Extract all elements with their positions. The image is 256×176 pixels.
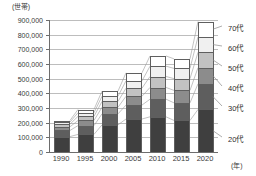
legend-label-70代[interactable]: 70代 (228, 22, 243, 33)
plot-area (49, 20, 218, 153)
y-axis-tick-mark (46, 49, 49, 50)
legend-label-60代[interactable]: 60代 (228, 42, 243, 53)
y-axis-tick-mark (46, 108, 49, 109)
y-axis-tick-mark (46, 20, 49, 21)
bar-segment-50代 (150, 77, 166, 88)
bar-segment-20代 (126, 119, 142, 152)
y-axis-tick-mark (46, 35, 49, 36)
x-axis-tick-labels: 1990199520002005201020152020 (49, 154, 217, 168)
bar-segment-70代 (150, 56, 166, 66)
y-axis-tick-label: 600,000 (18, 61, 43, 68)
x-axis-tick-label-2000: 2000 (101, 154, 118, 163)
y-axis-tick-labels: 0100,000200,000300,000400,000500,000600,… (0, 20, 46, 152)
y-axis-tick-mark (46, 79, 49, 80)
y-axis-tick-mark (46, 93, 49, 94)
bar-2000[interactable] (102, 91, 118, 152)
bar-segment-30代 (102, 114, 118, 125)
y-axis-tick-mark (46, 137, 49, 138)
legend-label-30代[interactable]: 30代 (228, 102, 243, 113)
bar-segment-40代 (198, 68, 214, 84)
bar-segment-30代 (126, 105, 142, 119)
bar-segment-40代 (174, 90, 190, 102)
bar-1990[interactable] (54, 121, 70, 152)
y-axis-tick-label: 200,000 (18, 119, 43, 126)
bar-segment-60代 (150, 66, 166, 76)
bar-segment-20代 (102, 125, 118, 152)
y-axis-tick-label: 300,000 (18, 105, 43, 112)
y-axis-tick-label: 800,000 (18, 31, 43, 38)
bar-segment-20代 (174, 120, 190, 152)
bar-segment-20代 (54, 137, 70, 152)
y-axis-tick-label: 900,000 (18, 17, 43, 24)
bar-segment-20代 (78, 134, 94, 152)
stacked-bars (50, 20, 218, 152)
bar-segment-50代 (126, 88, 142, 96)
bar-segment-60代 (198, 37, 214, 52)
y-axis-tick-label: 500,000 (18, 75, 43, 82)
y-axis-tick-label: 700,000 (18, 46, 43, 53)
bar-segment-50代 (198, 52, 214, 67)
bar-segment-40代 (126, 96, 142, 105)
x-axis-tick-label-2010: 2010 (149, 154, 166, 163)
bar-segment-70代 (174, 59, 190, 69)
y-axis-tick-label: 0 (39, 149, 43, 156)
bar-segment-60代 (126, 81, 142, 88)
y-axis-tick-mark (46, 152, 49, 153)
legend-label-50代[interactable]: 50代 (228, 62, 243, 73)
x-axis-tick-label-1995: 1995 (77, 154, 94, 163)
x-axis-tick-label-1990: 1990 (53, 154, 70, 163)
bar-segment-20代 (198, 109, 214, 152)
bar-segment-40代 (150, 88, 166, 100)
bar-segment-70代 (198, 22, 214, 37)
y-axis-tick-label: 400,000 (18, 90, 43, 97)
legend-label-20代[interactable]: 20代 (228, 133, 243, 144)
bar-2005[interactable] (126, 73, 142, 152)
bar-segment-30代 (150, 99, 166, 117)
bar-segment-70代 (126, 73, 142, 81)
bar-2020[interactable] (198, 22, 214, 152)
bar-2010[interactable] (150, 56, 166, 152)
y-axis-tick-mark (46, 123, 49, 124)
x-axis-unit-label: (年) (231, 160, 243, 170)
legend-label-40代[interactable]: 40代 (228, 82, 243, 93)
bar-1995[interactable] (78, 110, 94, 152)
bar-segment-40代 (102, 107, 118, 114)
chart-root: (世帯) (年) 0100,000200,000300,000400,00050… (0, 0, 256, 176)
x-axis-tick-label-2020: 2020 (197, 154, 214, 163)
y-axis-unit-label: (世帯) (12, 1, 30, 11)
bar-segment-60代 (174, 68, 190, 78)
bar-segment-50代 (174, 79, 190, 91)
x-axis-tick-label-2005: 2005 (125, 154, 142, 163)
bar-segment-30代 (198, 84, 214, 110)
bar-segment-20代 (150, 117, 166, 152)
x-axis-tick-label-2015: 2015 (173, 154, 190, 163)
y-axis-tick-label: 100,000 (18, 134, 43, 141)
bar-segment-30代 (174, 103, 190, 121)
bar-segment-30代 (78, 126, 94, 135)
bar-2015[interactable] (174, 59, 190, 152)
y-axis-tick-mark (46, 64, 49, 65)
